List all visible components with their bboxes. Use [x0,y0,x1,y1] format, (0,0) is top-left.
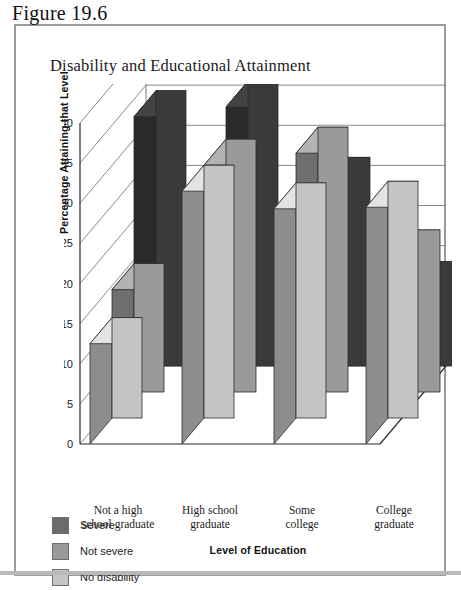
bar-chart-svg: 0510152025303540 [64,84,452,554]
svg-text:5: 5 [67,398,73,410]
chart-plot-area: 0510152025303540 Percentage Attaining th… [64,84,452,454]
chart-title: Disability and Educational Attainment [50,56,311,76]
x-tick-label-3: Collegegraduate [344,504,444,531]
figure-frame: Disability and Educational Attainment 05… [14,24,446,576]
legend-label-not-severe: Not severe [80,545,133,557]
svg-text:0: 0 [67,438,73,450]
x-tick-label-2: Somecollege [252,504,352,531]
y-axis-title: Percentage Attaining that Level [58,71,70,234]
figure-number: Figure 19.6 [12,2,108,25]
legend-swatch-severe [52,517,69,534]
svg-text:25: 25 [64,237,73,249]
legend-item-severe: Severe [52,512,252,538]
legend-swatch-not-severe [52,543,69,560]
legend-label-severe: Severe [80,519,115,531]
svg-text:20: 20 [64,278,73,290]
legend-item-not-severe: Not severe [52,538,252,564]
legend-item-no-disability: No disability [52,564,252,590]
chart-legend: Severe Not severe No disability [52,512,252,590]
page-bottom-rule [0,571,461,575]
svg-text:10: 10 [64,358,73,370]
svg-text:15: 15 [64,318,73,330]
